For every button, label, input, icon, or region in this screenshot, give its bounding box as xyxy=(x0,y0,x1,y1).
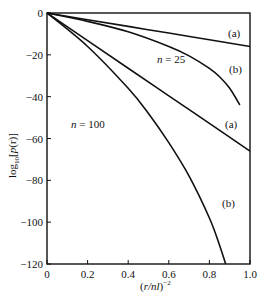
y-tick-label: 0 xyxy=(38,7,44,19)
x-tick-label: 0.8 xyxy=(203,268,217,280)
label-n25-eq: = 25 xyxy=(163,53,186,65)
series-n-25-a xyxy=(47,13,250,46)
label-n100-a: (a) xyxy=(225,118,238,131)
y-tick-label: −40 xyxy=(26,91,44,103)
series-n-25-b xyxy=(47,13,240,105)
series-n-100-a xyxy=(47,13,250,151)
label-n25-a: (a) xyxy=(228,27,241,40)
y-tick-label: −80 xyxy=(26,174,44,186)
y-axis-title-close: ] xyxy=(6,133,18,137)
x-axis-title-sup: −2 xyxy=(163,279,171,287)
y-axis-title-args: (r) xyxy=(6,136,19,147)
chart: 0−20−40−60−80−100−120 00.20.40.60.81.0 (… xyxy=(0,0,265,300)
y-axis-title: log10[p(r)] xyxy=(6,133,21,178)
x-axis-title: (r/nl)−2 xyxy=(140,279,171,293)
x-tick-label: 0.4 xyxy=(121,268,135,280)
x-axis-title-var: r/nl xyxy=(144,280,160,292)
y-tick-label: −120 xyxy=(20,258,43,270)
x-tick-label: 0.2 xyxy=(81,268,95,280)
series-lines xyxy=(47,13,250,264)
x-tick-label: 1.0 xyxy=(243,268,257,280)
x-tick-label: 0 xyxy=(44,268,50,280)
y-tick-label: −20 xyxy=(26,49,44,61)
y-tick-label: −100 xyxy=(20,216,43,228)
label-n25: n = 25 xyxy=(157,53,186,65)
series-n-100-b xyxy=(47,13,226,264)
plot-frame xyxy=(47,13,250,264)
label-n25-b: (b) xyxy=(229,63,242,76)
label-n100-b: (b) xyxy=(222,197,235,210)
y-axis-title-log: log xyxy=(6,163,18,178)
label-n100: n = 100 xyxy=(71,118,105,130)
y-tick-label: −60 xyxy=(26,133,44,145)
label-n100-eq: = 100 xyxy=(77,118,106,130)
